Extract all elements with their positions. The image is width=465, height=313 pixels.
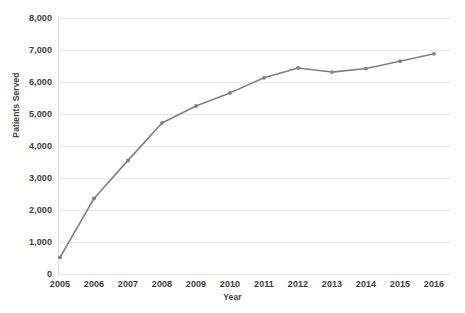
- line-chart: Patients Served 01,0002,0003,0004,0005,0…: [0, 0, 465, 313]
- plot-area: [58, 18, 450, 274]
- y-axis-tick-label: 7,000: [6, 45, 52, 55]
- x-axis-tick-label: 2006: [84, 279, 104, 289]
- data-point-marker: [296, 66, 300, 70]
- data-point-marker: [398, 59, 402, 63]
- x-axis-tick-label: 2012: [288, 279, 308, 289]
- data-point-marker: [160, 121, 164, 125]
- data-point-marker: [364, 67, 368, 71]
- series-line-patients-served: [58, 18, 450, 274]
- data-point-marker: [126, 159, 130, 163]
- x-axis-tick-label: 2011: [254, 279, 274, 289]
- x-axis-tick-label: 2014: [356, 279, 376, 289]
- x-axis-tick-label: 2008: [152, 279, 172, 289]
- data-point-marker: [58, 255, 62, 259]
- data-point-marker: [330, 70, 334, 74]
- x-axis-tick-label: 2016: [424, 279, 444, 289]
- x-axis-tick-labels: 2005200620072008200920102011201220132014…: [58, 279, 450, 293]
- y-axis-tick-label: 0: [6, 269, 52, 279]
- x-axis-tick-label: 2005: [50, 279, 70, 289]
- gridline: [58, 274, 450, 275]
- y-axis-tick-labels: 01,0002,0003,0004,0005,0006,0007,0008,00…: [0, 18, 52, 274]
- y-axis-tick-label: 3,000: [6, 173, 52, 183]
- x-axis-tick-label: 2015: [390, 279, 410, 289]
- x-axis-tick-label: 2013: [322, 279, 342, 289]
- x-axis-tick-label: 2010: [220, 279, 240, 289]
- data-point-marker: [92, 197, 96, 201]
- data-point-marker: [194, 104, 198, 108]
- y-axis-tick-label: 6,000: [6, 77, 52, 87]
- y-axis-tick-label: 4,000: [6, 141, 52, 151]
- y-axis-tick-label: 5,000: [6, 109, 52, 119]
- y-axis-tick-label: 8,000: [6, 13, 52, 23]
- x-axis-tick-label: 2009: [186, 279, 206, 289]
- y-axis-tick-label: 2,000: [6, 205, 52, 215]
- x-axis-title: Year: [0, 292, 465, 302]
- x-axis-tick-label: 2007: [118, 279, 138, 289]
- data-point-marker: [432, 52, 436, 56]
- y-axis-tick-label: 1,000: [6, 237, 52, 247]
- data-point-marker: [262, 76, 266, 80]
- data-point-marker: [228, 91, 232, 95]
